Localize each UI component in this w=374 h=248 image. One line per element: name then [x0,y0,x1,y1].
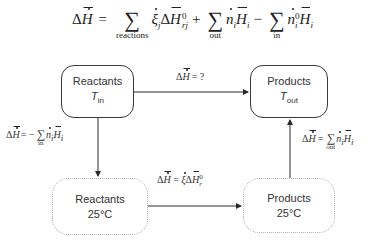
label-rhs: = ? [192,71,205,82]
sum-sub: in [38,140,43,147]
box-products-tout: Products Tout [250,65,328,118]
small-sum: ∑in [36,129,45,147]
box-label: Products [267,191,310,206]
small-sum: ∑out [326,133,335,151]
box-reactants-25c: Reactants 25°C [52,178,148,235]
box-temp: Tout [280,89,298,108]
box-products-25c: Products 25°C [243,178,335,233]
label-rhs: = − [21,129,35,140]
box-reactants-tin: Reactants Tin [61,65,134,118]
temp-sub: out [287,97,298,106]
label-cool-reactants: ΔH= −∑inniHi [6,129,63,147]
box-temp: 25°C [88,207,113,222]
temp-sub: in [98,97,104,106]
temp-var: T [280,90,287,102]
box-label: Reactants [73,74,123,89]
label-heat-products: ΔH=∑outniHi [302,133,354,151]
box-label: Reactants [75,192,125,207]
sum-sub: out [326,144,335,151]
box-label: Products [267,74,310,89]
temp-var: T [91,90,98,102]
label-reaction: ΔH = ξΔH0r [157,174,203,188]
label-rhs: = [318,133,324,144]
label-direct: ΔH= ? [176,71,204,83]
box-temp: 25°C [277,206,302,221]
box-temp: Tin [91,89,104,108]
